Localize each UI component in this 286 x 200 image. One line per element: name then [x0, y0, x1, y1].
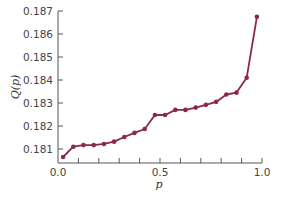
x-axis-label: p [155, 178, 162, 191]
y-tick-label: 0.181 [23, 143, 53, 155]
data-point-marker [132, 131, 137, 136]
line-chart: 0.1810.1820.1830.1840.1850.1860.187 0.00… [0, 0, 286, 200]
y-tick-label: 0.184 [23, 74, 53, 86]
series-line [63, 17, 257, 157]
y-tick-label: 0.187 [23, 5, 53, 17]
data-point-marker [255, 14, 260, 19]
y-tick-label: 0.186 [23, 28, 53, 40]
axes [58, 11, 262, 163]
x-tick-label: 0.0 [50, 166, 67, 178]
data-point-marker [173, 108, 178, 113]
data-point-marker [71, 144, 76, 149]
data-point-marker [102, 142, 107, 147]
data-point-marker [183, 108, 188, 113]
y-axis-ticks: 0.1810.1820.1830.1840.1850.1860.187 [23, 5, 63, 155]
data-point-marker [224, 92, 229, 97]
y-tick-label: 0.183 [23, 97, 53, 109]
data-point-marker [91, 143, 96, 148]
y-tick-label: 0.185 [23, 51, 53, 63]
y-tick-label: 0.182 [23, 120, 53, 132]
data-point-marker [61, 155, 66, 160]
data-point-marker [214, 100, 219, 105]
x-tick-label: 1.0 [254, 166, 271, 178]
x-tick-label: 0.5 [152, 166, 169, 178]
data-series [61, 14, 259, 159]
data-point-marker [163, 113, 168, 118]
data-point-marker [204, 103, 209, 108]
data-point-marker [244, 75, 249, 80]
data-point-marker [153, 113, 158, 118]
data-point-marker [81, 143, 86, 148]
data-point-marker [122, 135, 127, 140]
data-point-marker [142, 127, 147, 132]
y-axis-label: Q(p) [9, 75, 22, 100]
data-point-marker [112, 139, 117, 144]
data-point-marker [234, 90, 239, 95]
x-axis-ticks: 0.00.51.0 [50, 158, 271, 178]
data-point-marker [193, 105, 198, 110]
